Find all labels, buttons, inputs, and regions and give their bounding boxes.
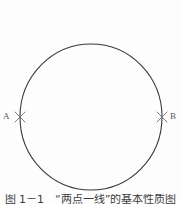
point-b-label: B — [170, 112, 176, 121]
figure-container: A B 图 1－1 “两点一线”的基本性质图 — [0, 0, 181, 204]
figure-caption: 图 1－1 “两点一线”的基本性质图 — [0, 194, 181, 204]
geometry-diagram — [0, 0, 181, 204]
point-a-label: A — [3, 112, 10, 121]
circle-shape — [20, 44, 162, 190]
figure-caption-text: 图 1－1 “两点一线”的基本性质图 — [0, 194, 181, 204]
